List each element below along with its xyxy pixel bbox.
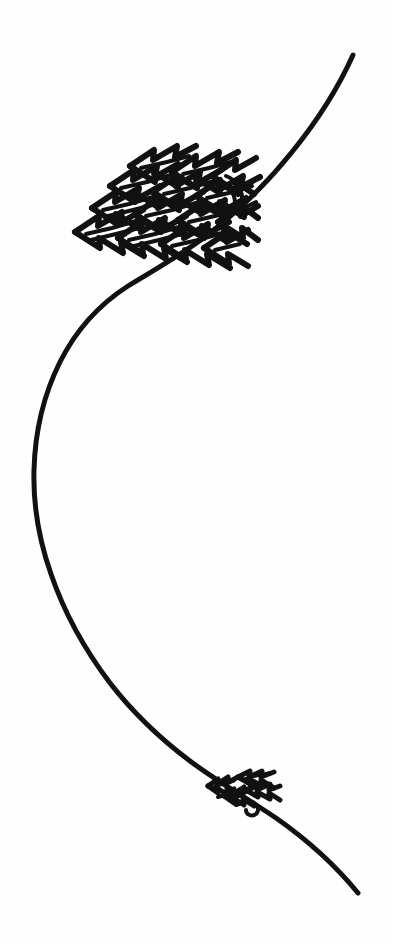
paper-background <box>0 0 393 945</box>
ink-drawing <box>0 0 393 945</box>
artboard <box>0 0 393 945</box>
